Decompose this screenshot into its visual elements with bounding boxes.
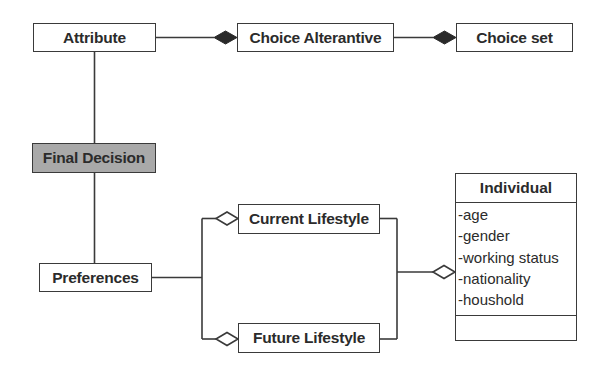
individual-class-box: Individual -age -gender -working status … — [455, 173, 577, 341]
future-lifestyle-box: Future Lifestyle — [238, 323, 380, 353]
individual-operations-compartment — [456, 316, 576, 340]
aggregation-diamond-icon — [216, 333, 238, 346]
choice-set-label: Choice set — [476, 29, 552, 47]
individual-label: Individual — [480, 179, 552, 197]
choice-alternative-box: Choice Alterantive — [237, 23, 394, 52]
preferences-box: Preferences — [39, 263, 152, 292]
class-attribute-gender: -gender — [458, 225, 576, 246]
class-attribute-working-status: -working status — [458, 247, 576, 268]
final-decision-label: Final Decision — [43, 149, 145, 167]
attribute-label: Attribute — [63, 29, 126, 47]
preferences-label: Preferences — [52, 269, 139, 287]
attribute-box: Attribute — [33, 23, 156, 52]
future-lifestyle-label: Future Lifestyle — [253, 329, 365, 347]
aggregation-diamond-icon — [433, 266, 455, 279]
aggregation-diamond-icon — [216, 212, 238, 225]
current-lifestyle-label: Current Lifestyle — [249, 210, 369, 228]
composition-diamond-icon — [433, 31, 456, 44]
choice-alternative-label: Choice Alterantive — [250, 29, 382, 47]
composition-diamond-icon — [214, 31, 237, 44]
individual-class-header: Individual — [456, 174, 576, 203]
class-attribute-houshold: -houshold — [458, 289, 576, 310]
choice-set-box: Choice set — [456, 23, 573, 52]
final-decision-box: Final Decision — [32, 143, 156, 173]
individual-attributes-compartment: -age -gender -working status -nationalit… — [456, 203, 576, 316]
class-attribute-age: -age — [458, 204, 576, 225]
current-lifestyle-box: Current Lifestyle — [238, 204, 380, 234]
class-attribute-nationality: -nationality — [458, 268, 576, 289]
